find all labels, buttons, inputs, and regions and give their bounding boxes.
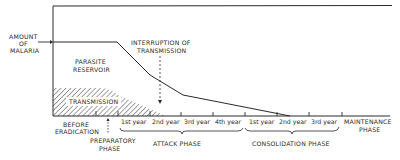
attack-year-2: 2nd year — [152, 118, 180, 126]
consolidation-phase-brace — [245, 127, 339, 134]
preparatory-phase-label-2: PHASE — [99, 145, 120, 152]
attack-phase-brace — [120, 128, 243, 134]
attack-year-1: 1st year — [121, 118, 147, 126]
consolidation-year-2: 2nd year — [279, 118, 307, 126]
attack-year-3: 3rd year — [184, 118, 211, 126]
arrow-down-icon — [158, 100, 162, 104]
before-eradication-label-1: BEFORE — [63, 121, 89, 128]
y-label-line-3: MALARIA — [10, 47, 40, 54]
arrow-right-icon — [38, 40, 53, 44]
transmission-label: TRANSMISSION — [68, 98, 119, 105]
consolidation-year-1: 1st year — [249, 118, 275, 126]
preparatory-arrow-icon — [107, 118, 110, 121]
maintenance-phase-label-1: MAINTENANCE — [344, 118, 392, 125]
parasite-reservoir-label-1: PARASITE — [75, 58, 106, 65]
year-ticks — [181, 112, 342, 116]
malaria-eradication-diagram: TRANSMISSION AMOUNT OF MALARIA PARASITE … — [0, 0, 400, 160]
interruption-label-2: TRANSMISSION — [136, 47, 187, 54]
frame-top-line — [53, 6, 392, 7]
before-eradication-label-2: ERADICATION — [55, 128, 99, 135]
maintenance-phase-label-2: PHASE — [359, 126, 380, 133]
consolidation-phase-label: CONSOLIDATION PHASE — [252, 140, 330, 147]
preparatory-phase-label-1: PREPARATORY — [90, 137, 136, 144]
attack-phase-label: ATTACK PHASE — [153, 140, 201, 147]
y-label-line-1: AMOUNT — [9, 33, 38, 40]
attack-year-4: 4th year — [215, 118, 242, 126]
y-label-line-2: OF — [19, 40, 28, 47]
consolidation-year-3: 3rd year — [311, 118, 338, 126]
parasite-reservoir-label-2: RESERVOIR — [73, 66, 110, 73]
interruption-label-1: INTERRUPTION OF — [131, 39, 191, 46]
